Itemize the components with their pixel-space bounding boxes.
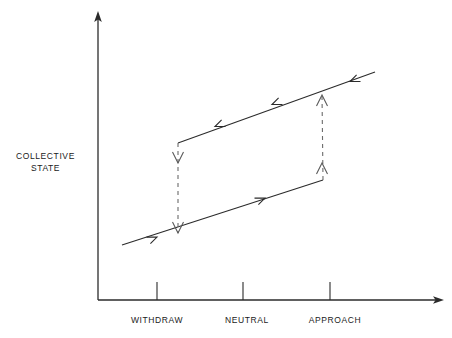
upper-branch-arrow-icon-2 [272,98,283,105]
lower-branch-arrow-icon-1 [147,237,158,244]
y-axis-label: COLLECTIVE STATE [16,151,75,173]
right-ascending-transition [317,95,328,180]
hysteresis-diagram-figure: COLLECTIVE STATE WITHDRAW NEUTRAL APPROA… [0,0,452,338]
right-transition-arrow-icon-mid [317,163,328,174]
lower-branch-curve [122,180,323,245]
right-transition-dashed-line [322,95,323,180]
x-axis-tick-labels: WITHDRAW NEUTRAL APPROACH [131,315,361,325]
axes-group [94,11,444,304]
tick-label-approach: APPROACH [309,315,362,325]
upper-branch-curve [178,72,375,143]
upper-branch-arrow-icon-3 [215,120,226,127]
y-axis-label-line2: STATE [31,163,60,173]
lower-branch-line [122,180,323,245]
tick-label-withdraw: WITHDRAW [131,315,183,325]
tick-label-neutral: NEUTRAL [225,315,269,325]
y-axis-label-line1: COLLECTIVE [16,151,75,161]
left-descending-transition [173,143,184,233]
upper-branch-line [178,72,375,143]
diagram-canvas: COLLECTIVE STATE WITHDRAW NEUTRAL APPROA… [0,0,452,338]
